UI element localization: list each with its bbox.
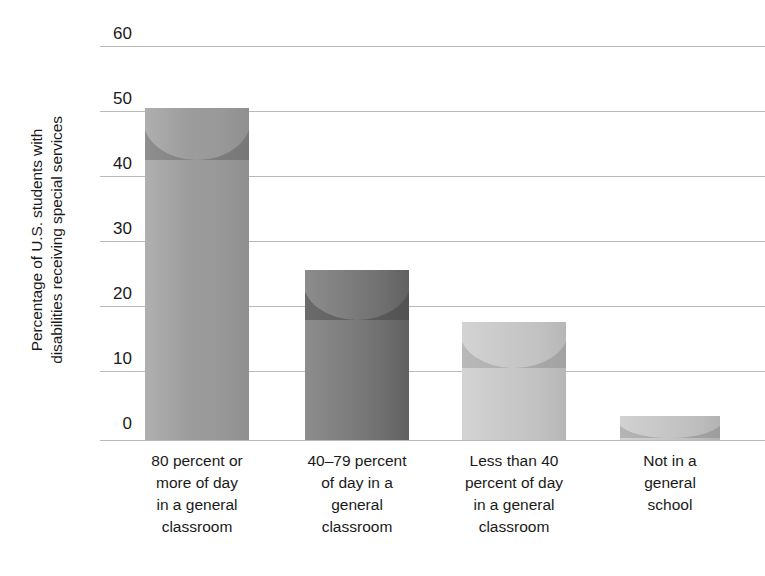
y-axis-title: Percentage of U.S. students with disabil… <box>24 30 70 450</box>
x-label-line: of day in a <box>274 472 440 494</box>
x-label-40-79-percent: 40–79 percent of day in a general classr… <box>274 450 440 538</box>
bar-cap <box>145 108 249 160</box>
bar-chart: Percentage of U.S. students with disabil… <box>0 0 765 576</box>
x-label-line: general <box>274 494 440 516</box>
bar-cap <box>462 322 566 368</box>
x-label-line: 40–79 percent <box>274 450 440 472</box>
x-label-line: general <box>587 472 753 494</box>
gridline-0 <box>100 440 765 441</box>
x-label-line: in a general <box>114 494 280 516</box>
x-label-line: 80 percent or <box>114 450 280 472</box>
y-tick-label-60: 60 <box>98 24 132 44</box>
bar-not-in-a-general-school[interactable] <box>620 416 720 440</box>
bar-40-79-percent[interactable] <box>305 270 409 440</box>
bar-cap <box>305 270 409 320</box>
bar-less-than-40-percent[interactable] <box>462 322 566 440</box>
x-label-line: school <box>587 494 753 516</box>
plot-area <box>100 46 765 441</box>
x-label-line: classroom <box>274 516 440 538</box>
bar-cap <box>620 416 720 438</box>
x-label-line: in a general <box>431 494 597 516</box>
x-axis-category-labels: 80 percent or more of day in a general c… <box>100 450 765 570</box>
x-label-line: percent of day <box>431 472 597 494</box>
bar-80-percent-or-more[interactable] <box>145 108 249 440</box>
x-label-line: Less than 40 <box>431 450 597 472</box>
gridline-60 <box>100 46 765 47</box>
y-axis-title-line-1: Percentage of U.S. students with <box>27 129 47 352</box>
x-label-line: classroom <box>431 516 597 538</box>
x-label-line: more of day <box>114 472 280 494</box>
x-label-line: classroom <box>114 516 280 538</box>
x-label-80-percent-or-more: 80 percent or more of day in a general c… <box>114 450 280 538</box>
x-label-less-than-40-percent: Less than 40 percent of day in a general… <box>431 450 597 538</box>
x-label-line: Not in a <box>587 450 753 472</box>
y-axis-title-line-2: disabilities receiving special services <box>47 116 67 364</box>
x-label-not-in-a-general-school: Not in a general school <box>587 450 753 516</box>
